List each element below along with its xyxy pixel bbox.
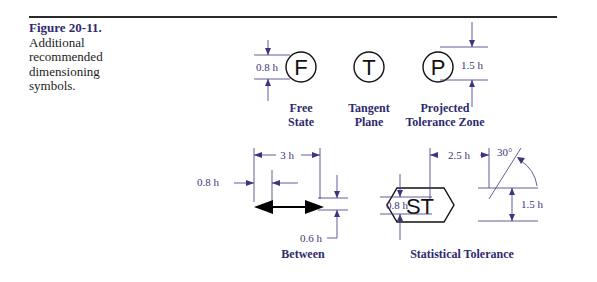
tangent-plane-label-1: Tangent — [348, 101, 390, 115]
projected-zone-label-2: Tolerance Zone — [405, 115, 485, 129]
tangent-plane-symbol: T Tangent Plane — [348, 52, 390, 129]
tangent-plane-glyph: T — [362, 55, 375, 80]
between-label: Between — [281, 247, 325, 261]
free-state-glyph: F — [294, 55, 307, 80]
projected-zone-glyph: P — [431, 55, 446, 80]
statistical-tolerance-symbol: ST 2.5 h 30° 1.5 h 0.8 h Statistical Tol… — [380, 146, 544, 261]
free-state-label-1: Free — [289, 101, 313, 115]
statistical-text-dim: 0.8 h — [386, 199, 409, 211]
projected-zone-label-1: Projected — [420, 101, 469, 115]
tangent-plane-label-2: Plane — [355, 115, 384, 129]
projected-zone-dim: 1.5 h — [461, 59, 484, 71]
statistical-height-dim: 1.5 h — [521, 198, 544, 210]
between-shaft-dim: 0.6 h — [300, 232, 323, 244]
free-state-label-2: State — [288, 115, 315, 129]
statistical-tolerance-label: Statistical Tolerance — [410, 247, 514, 261]
free-state-symbol: 0.8 h F Free State — [254, 40, 316, 129]
free-state-dim: 0.8 h — [256, 61, 279, 73]
between-arrow-dim: 0.8 h — [197, 176, 220, 188]
dimensioning-symbols-figure: 0.8 h F Free State T Tangent Plane P 1.5… — [0, 0, 597, 282]
between-width-dim: 3 h — [280, 149, 294, 161]
between-symbol: 3 h 0.8 h 0.6 h Between — [197, 148, 348, 261]
projected-tolerance-zone-symbol: P 1.5 h Projected Tolerance Zone — [405, 22, 488, 129]
statistical-width-dim: 2.5 h — [448, 149, 471, 161]
statistical-angle-dim: 30° — [497, 146, 512, 158]
